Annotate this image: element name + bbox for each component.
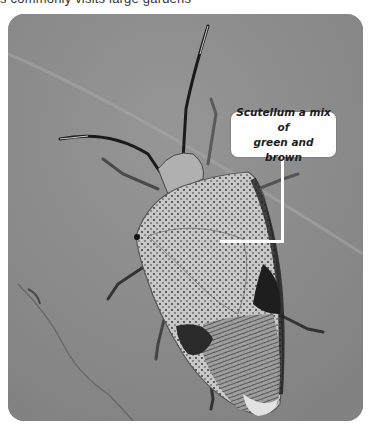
callout-leader-horizontal <box>220 240 284 243</box>
callout-line-2: green and brown <box>253 136 313 163</box>
callout-line-1: Scutellum a mix of <box>236 106 331 133</box>
callout-text: Scutellum a mix of green and brown <box>231 105 336 165</box>
scutellum-callout: Scutellum a mix of green and brown <box>231 112 336 157</box>
page-caption-fragment: s commonly visits large gardens <box>0 0 191 6</box>
callout-leader-vertical <box>281 157 284 243</box>
shield-bug-illustration <box>8 14 363 421</box>
bug-photo <box>8 14 363 421</box>
